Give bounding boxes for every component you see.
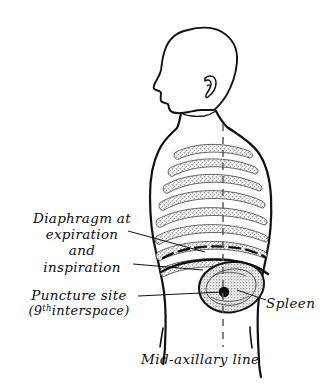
rib-cage [155,144,268,276]
head-profile [154,28,238,114]
spleen-organ [199,262,264,313]
label-puncture-ordinal-suffix: th [42,303,52,313]
label-puncture-line1: Puncture site [6,287,152,303]
label-puncture-suffix: interspace) [52,303,130,318]
anatomical-diagram-figure: Diaphragm at expiration and inspiration … [0,0,336,389]
label-spleen: Spleen [266,296,315,312]
bracket-right-midaxillary [250,327,252,348]
label-diaphragm-line1: Diaphragm at [14,210,150,226]
label-puncture-prefix: (9 [28,303,42,318]
label-diaphragm-line3: and [14,242,150,258]
label-puncture-site: Puncture site (9thinterspace) [6,287,152,319]
bracket-left-midaxillary [160,328,163,347]
label-diaphragm-line2: expiration [14,226,150,242]
label-mid-axillary-line: Mid-axillary line [141,352,260,368]
label-puncture-line2: (9thinterspace) [6,303,152,319]
label-diaphragm: Diaphragm at expiration and inspiration [14,210,150,275]
label-diaphragm-line4: inspiration [14,259,150,275]
diagram-canvas [0,0,336,389]
